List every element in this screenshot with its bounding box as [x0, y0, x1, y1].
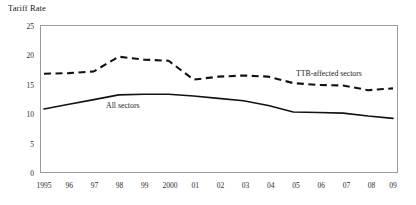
x-tick-7: 02	[217, 181, 225, 190]
x-tick-10: 05	[292, 181, 300, 190]
x-tick-2: 97	[91, 181, 99, 190]
y-tick-15: 15	[27, 81, 35, 90]
y-tick-5: 5	[30, 140, 34, 149]
x-tick-8: 03	[242, 181, 250, 190]
y-axis-tick-labels: 25 20 15 10 5 0	[27, 22, 35, 179]
x-tick-13: 08	[368, 181, 376, 190]
y-tick-0: 0	[30, 169, 34, 178]
y-tick-10: 10	[27, 110, 35, 119]
x-tick-1: 96	[65, 181, 73, 190]
x-tick-5: 2000	[163, 181, 178, 190]
x-tick-0: 1995	[37, 181, 52, 190]
x-tick-6: 01	[191, 181, 199, 190]
tariff-rate-line-chart: 25 20 15 10 5 0 1995 96 97 98 99 2000 01…	[0, 0, 416, 205]
series-line-all-sectors	[44, 94, 393, 118]
x-tick-9: 04	[267, 181, 275, 190]
y-tick-20: 20	[27, 51, 35, 60]
x-tick-12: 07	[343, 181, 351, 190]
x-tick-4: 99	[141, 181, 149, 190]
x-tick-3: 98	[116, 181, 124, 190]
y-tick-25: 25	[27, 22, 35, 31]
x-tick-14: 09	[389, 181, 397, 190]
x-tick-11: 06	[317, 181, 325, 190]
series-label-all-sectors: All sectors	[106, 101, 140, 110]
chart-page: Tariff Rate 25 20 15 10 5 0 1995 96 97 9…	[0, 0, 416, 205]
x-axis-tick-labels: 1995 96 97 98 99 2000 01 02 03 04 05 06 …	[37, 181, 398, 190]
series-label-ttb-affected-sectors: TTB-affected sectors	[296, 69, 362, 78]
